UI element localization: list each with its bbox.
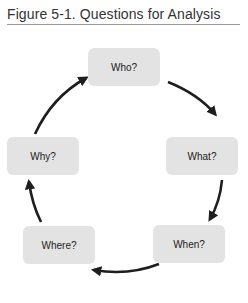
node-when: When? [153,225,225,263]
node-where-label: Where? [41,240,76,251]
node-who-label: Who? [111,62,137,73]
node-who: Who? [88,48,160,86]
arrow-where-to-why [29,182,41,222]
arrow-why-to-who [35,78,86,134]
arrow-what-to-when [210,180,222,219]
node-why: Why? [7,137,79,175]
arrow-who-to-what [168,82,215,114]
node-what: What? [166,137,238,175]
node-what-label: What? [188,151,217,162]
node-when-label: When? [173,239,205,250]
node-where: Where? [23,226,95,264]
node-why-label: Why? [30,151,56,162]
arrow-when-to-where [94,264,159,272]
